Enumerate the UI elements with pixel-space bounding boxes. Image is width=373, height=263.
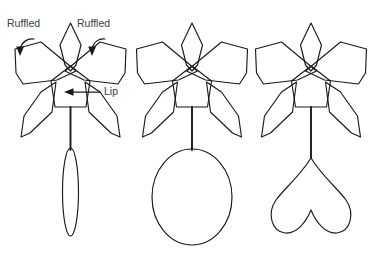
flower-2-ovary xyxy=(152,149,232,245)
flower-2-left-lateral-sepal xyxy=(137,42,198,84)
ruffled-left-arrowhead xyxy=(16,47,24,57)
flower-3-lip xyxy=(292,66,331,107)
flower-1-dorsal-sepal xyxy=(60,23,81,71)
ruffled-right-label: Ruffled xyxy=(77,17,110,29)
flower-diagram-canvas: Ruffled Ruffled Lip xyxy=(0,0,373,263)
flower-1-left-lower-petal xyxy=(21,82,56,137)
flower-2-left-lower-petal xyxy=(143,82,178,137)
flower-2-dorsal-sepal xyxy=(182,23,203,71)
flower-3-left-lower-petal xyxy=(262,82,297,137)
ruffled-left-label: Ruffled xyxy=(7,17,40,29)
flower-2-right-lateral-sepal xyxy=(187,42,248,84)
flower-1-ovary xyxy=(63,148,79,236)
flower-3-left-lateral-sepal xyxy=(256,42,317,84)
flower-3-ovary xyxy=(271,158,351,233)
lip-label: Lip xyxy=(104,85,118,97)
flower-3-right-lateral-sepal xyxy=(306,42,367,84)
flower-3-dorsal-sepal xyxy=(301,23,322,71)
flower-1 xyxy=(15,23,126,236)
flower-1-lip xyxy=(51,66,90,107)
orchid-diagram-figure: Ruffled Ruffled Lip xyxy=(0,0,373,263)
flower-2 xyxy=(137,23,248,245)
lip-arrowhead xyxy=(64,88,74,96)
flower-2-right-lower-petal xyxy=(207,82,242,137)
flower-1-left-lateral-sepal xyxy=(15,42,76,84)
flower-2-lip xyxy=(173,66,212,107)
flower-3-right-lower-petal xyxy=(326,82,361,137)
flower-3 xyxy=(256,23,367,233)
flower-1-right-lateral-sepal xyxy=(65,42,126,84)
